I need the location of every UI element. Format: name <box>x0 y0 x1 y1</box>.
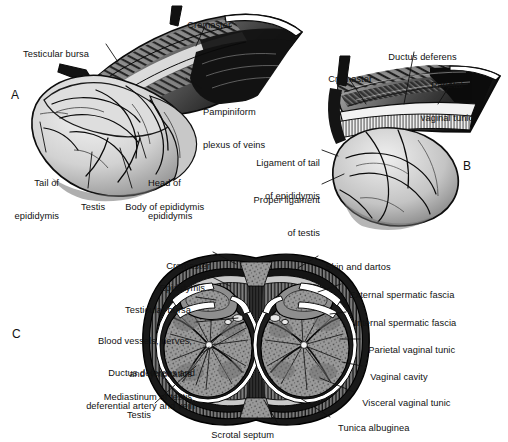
label-tail-of-epididymis: Tail of epididymis <box>0 155 59 234</box>
label-text: External spermatic fascia <box>349 290 454 300</box>
label-internal-spermatic-fascia: Internal spermatic fascia <box>349 307 456 330</box>
label-text-line1: Head of <box>148 178 192 189</box>
label-text: Testis <box>81 202 105 212</box>
label-text-line1: Proper ligament <box>220 195 320 206</box>
label-scrotal-septum: Scrotal septum <box>140 419 274 442</box>
label-text: Visceral vaginal tunic <box>362 398 450 408</box>
panel-letter-c: C <box>12 327 21 341</box>
label-text-line1: Tail of <box>0 178 59 189</box>
label-text: Scrotal septum <box>211 430 274 440</box>
label-text-line2: epididymis <box>0 211 59 222</box>
label-testis-a: Testis <box>76 191 105 214</box>
label-visceral-vaginal-tunic: Visceral vaginal tunic <box>357 387 451 410</box>
panel-letter-b: B <box>463 159 471 173</box>
label-text: Tunica albuginea <box>338 423 409 433</box>
label-text: Cremaster <box>166 261 210 271</box>
label-text-line2: vaginal tunic <box>392 113 502 124</box>
label-testicular-bursa-a: Testicular bursa <box>18 38 89 61</box>
label-text: Testicular bursa <box>23 49 89 59</box>
label-text: Cremaster <box>187 20 231 30</box>
label-parietal-vaginal-tunic-b: Parietal vaginal tunic <box>392 57 502 136</box>
label-external-spermatic-fascia: External spermatic fascia <box>344 279 454 302</box>
label-vaginal-cavity: Vaginal cavity <box>365 361 428 384</box>
label-text-line1: Ductus deferens and <box>12 368 195 379</box>
label-text-line1: Pampiniform <box>203 107 265 118</box>
label-text: Internal spermatic fascia <box>354 318 456 328</box>
label-text: Cremaster <box>328 74 372 84</box>
label-text-line1: Ligament of tail <box>220 158 320 169</box>
label-text: Parietal vaginal tunic <box>368 345 455 355</box>
label-body-of-epididymis: Body of epididymis <box>120 191 204 214</box>
label-cremaster-b: Cremaster <box>323 63 372 86</box>
label-cremaster-a: Cremaster <box>182 9 231 32</box>
label-testis-c: Testis <box>60 399 151 422</box>
label-parietal-vaginal-tunic-c: Parietal vaginal tunic <box>363 334 455 357</box>
label-text: Skin and dartos <box>325 262 390 272</box>
label-tunica-albuginea: Tunica albuginea <box>333 412 409 435</box>
label-text-line2: of testis <box>220 228 320 239</box>
label-skin-and-dartos: Skin and dartos <box>320 251 391 274</box>
label-cremaster-c: Cremaster <box>80 250 210 273</box>
label-text: Vaginal cavity <box>370 372 427 382</box>
label-text: Epididymis <box>160 283 205 293</box>
label-text-line1: Parietal <box>392 80 502 91</box>
panel-letter-a: A <box>11 88 19 102</box>
label-epididymis-c: Epididymis <box>75 272 205 295</box>
label-proper-ligament-of-testis: Proper ligament of testis <box>220 172 320 251</box>
label-text: Body of epididymis <box>125 202 204 212</box>
